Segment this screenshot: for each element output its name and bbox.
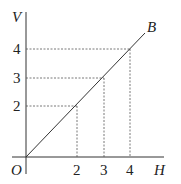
- v-h-graph: V H O B 4 3 2 2 3 4: [0, 0, 181, 184]
- x-tick-2: 2: [73, 162, 81, 178]
- y-tick-3: 3: [13, 70, 21, 86]
- x-tick-4: 4: [126, 162, 134, 178]
- x-tick-3: 3: [100, 162, 108, 178]
- line-b-label: B: [147, 19, 156, 35]
- y-tick-2: 2: [13, 98, 21, 114]
- origin-label: O: [11, 162, 22, 178]
- y-axis-label: V: [12, 9, 23, 25]
- line-b: [26, 33, 145, 157]
- y-tick-4: 4: [13, 41, 21, 57]
- x-axis-label: H: [153, 162, 166, 178]
